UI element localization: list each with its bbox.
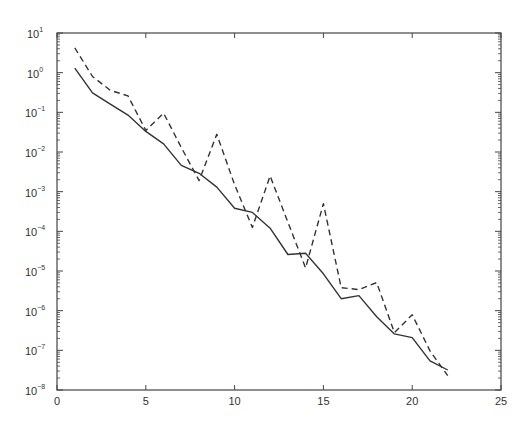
series-lines xyxy=(75,48,448,376)
y-tick-label: 10−8 xyxy=(25,383,45,397)
x-tick-label: 15 xyxy=(317,395,329,407)
x-tick-label: 20 xyxy=(406,395,418,407)
x-tick-label: 25 xyxy=(495,395,507,407)
tick-labels: 051015202510110010−110−210−310−410−510−6… xyxy=(25,26,507,407)
y-tick-label: 10−1 xyxy=(25,105,45,119)
y-tick-label: 10−4 xyxy=(25,224,45,238)
x-tick-label: 10 xyxy=(228,395,240,407)
x-tick-label: 0 xyxy=(54,395,60,407)
y-tick-label: 10−3 xyxy=(25,185,45,199)
y-tick-label: 10−2 xyxy=(25,145,45,159)
line-chart: 051015202510110010−110−210−310−410−510−6… xyxy=(0,0,531,427)
y-tick-label: 10−5 xyxy=(25,264,45,278)
axes xyxy=(57,33,501,390)
y-tick-label: 101 xyxy=(27,26,43,40)
x-tick-label: 5 xyxy=(143,395,149,407)
y-tick-label: 10−6 xyxy=(25,304,45,318)
series-dashed xyxy=(75,48,448,376)
y-tick-label: 100 xyxy=(27,66,43,80)
y-tick-label: 10−7 xyxy=(25,343,45,357)
axes-frame xyxy=(57,33,501,390)
